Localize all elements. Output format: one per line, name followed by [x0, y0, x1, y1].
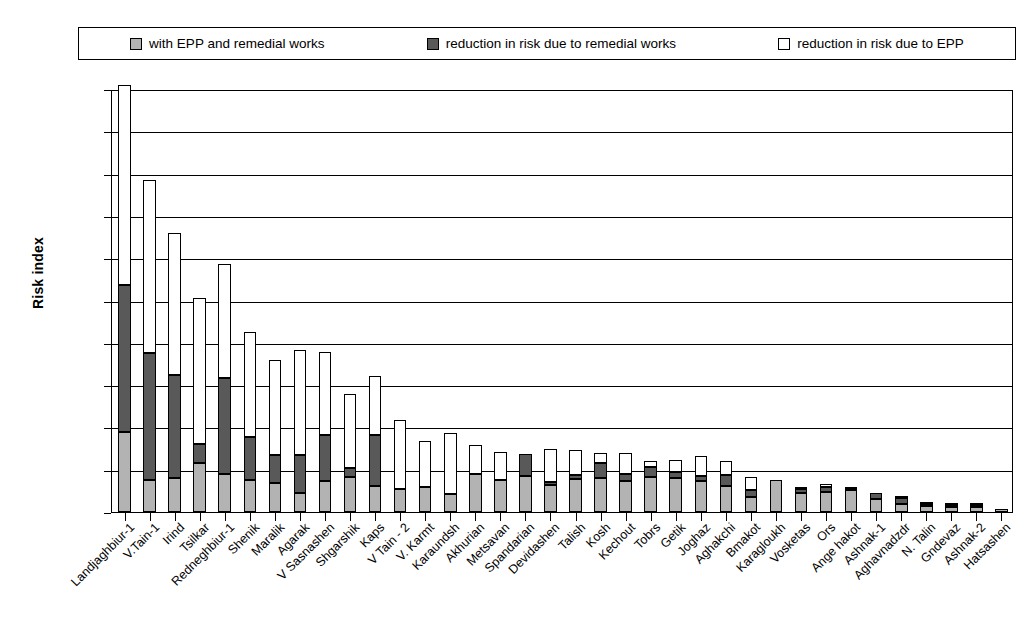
bar-segment: [319, 435, 332, 482]
bar-segment: [193, 444, 206, 463]
bar-segment: [168, 375, 181, 479]
bar-column: [319, 352, 332, 512]
y-tick-mark: [104, 386, 111, 387]
y-tick-mark: [104, 259, 111, 260]
bar-segment: [695, 456, 708, 476]
legend-label: reduction in risk due to remedial works: [446, 37, 676, 51]
y-tick-mark: [104, 428, 111, 429]
bar-segment: [720, 461, 733, 475]
bar-segment: [118, 85, 131, 285]
bar-segment: [294, 455, 307, 493]
bar-segment: [118, 285, 131, 432]
bar-segment: [143, 180, 156, 353]
bar-segment: [269, 360, 282, 455]
bar-segment: [644, 467, 657, 478]
bar-column: [143, 180, 156, 512]
bar-segment: [544, 449, 557, 483]
bar-segment: [193, 298, 206, 444]
legend-label: reduction in risk due to EPP: [797, 37, 964, 51]
bar-segment: [444, 433, 457, 494]
bar-segment: [845, 487, 858, 489]
y-tick-mark: [104, 513, 111, 514]
bar-column: [218, 264, 231, 513]
bar-segment: [669, 460, 682, 472]
bar-column: [193, 298, 206, 512]
bar-segment: [294, 350, 307, 455]
bar-segment: [218, 378, 231, 474]
bar-segment: [469, 445, 482, 474]
plot-area: [111, 90, 1013, 513]
bar-segment: [244, 437, 257, 480]
bar-segment: [519, 454, 532, 476]
bar-series: [112, 90, 1012, 512]
white-square-icon: [778, 38, 790, 50]
bar-segment: [720, 475, 733, 486]
bar-column: [845, 487, 858, 512]
chart-legend: with EPP and remedial works reduction in…: [78, 27, 1016, 60]
bar-segment: [669, 472, 682, 478]
bar-segment: [143, 353, 156, 480]
bar-column: [394, 420, 407, 512]
bar-segment: [319, 352, 332, 434]
legend-label: with EPP and remedial works: [149, 37, 324, 51]
y-axis-title: Risk index: [30, 213, 46, 333]
bar-segment: [569, 450, 582, 475]
bar-segment: [619, 474, 632, 481]
y-tick-mark: [104, 175, 111, 176]
bar-column: [244, 332, 257, 512]
bar-segment: [168, 233, 181, 375]
bar-segment: [344, 394, 357, 468]
legend-item-with-epp-and-remedial-works: with EPP and remedial works: [130, 37, 324, 51]
y-tick-mark: [104, 217, 111, 218]
y-tick-mark: [104, 302, 111, 303]
x-tick-mark: [125, 513, 126, 521]
bar-segment: [394, 420, 407, 489]
bar-segment: [695, 476, 708, 481]
dark-gray-square-icon: [427, 38, 439, 50]
bar-segment: [344, 468, 357, 478]
bar-segment: [419, 441, 432, 486]
y-tick-mark: [104, 344, 111, 345]
light-gray-square-icon: [130, 38, 142, 50]
bar-segment: [594, 453, 607, 464]
legend-item-reduction-remedial-works: reduction in risk due to remedial works: [427, 37, 676, 51]
bar-segment: [544, 482, 557, 484]
bar-segment: [619, 453, 632, 474]
bar-segment: [795, 489, 808, 493]
legend-item-reduction-epp: reduction in risk due to EPP: [778, 37, 964, 51]
x-axis-labels: Landjaghbiur-1V.Tain-1IrindTsilkarRedneg…: [111, 521, 1013, 633]
bar-segment: [369, 376, 382, 435]
chart-page: with EPP and remedial works reduction in…: [0, 0, 1029, 636]
y-tick-mark: [104, 471, 111, 472]
bar-column: [294, 350, 307, 512]
bar-segment: [218, 264, 231, 378]
bar-column: [118, 85, 131, 512]
bar-segment: [118, 432, 131, 512]
bar-segment: [795, 487, 808, 489]
bar-segment: [644, 461, 657, 466]
y-tick-mark: [104, 90, 111, 91]
y-tick-mark: [104, 132, 111, 133]
bar-segment: [494, 452, 507, 481]
bar-segment: [745, 477, 758, 490]
bar-segment: [244, 332, 257, 437]
